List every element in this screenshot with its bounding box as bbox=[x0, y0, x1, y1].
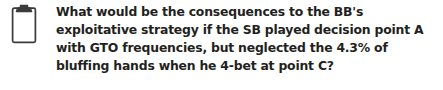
question-callout: What would be the consequences to the BB… bbox=[0, 0, 443, 90]
question-text: What would be the consequences to the BB… bbox=[56, 3, 441, 75]
clipboard-icon bbox=[11, 4, 37, 44]
